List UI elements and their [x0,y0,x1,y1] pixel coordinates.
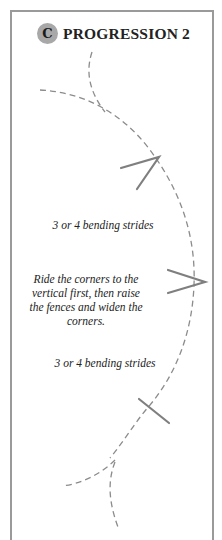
strides-label-bottom: 3 or 4 bending strides [50,356,160,370]
fence-icon-top [121,157,159,189]
strides-label-top: 3 or 4 bending strides [48,218,158,232]
fence-icon-bottom [139,399,169,423]
fence-icon-middle [168,270,205,293]
approach-path-top [89,52,105,112]
exit-path-left [62,460,115,486]
instruction-text: Ride the corners to the vertical first, … [26,272,146,328]
exit-path-down [110,462,118,527]
